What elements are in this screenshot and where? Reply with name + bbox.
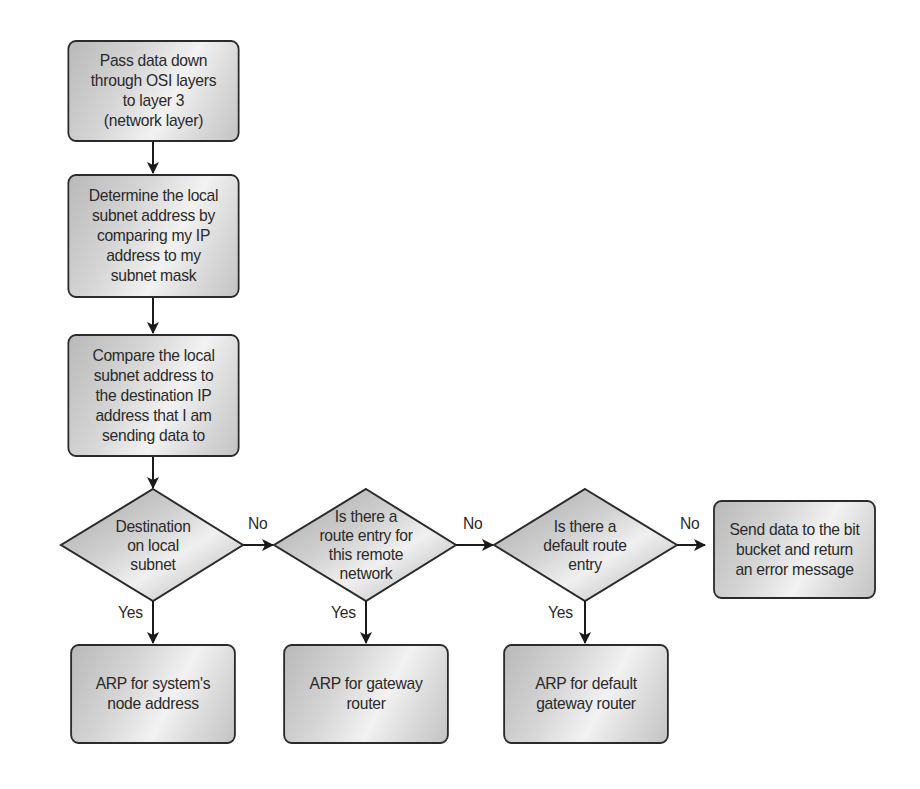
process-label: ARP for gateway router xyxy=(310,674,423,714)
edge-label-decision2-yes: Yes xyxy=(331,603,356,623)
process-arp-default-gateway: ARP for default gateway router xyxy=(503,644,669,744)
edge-label-decision3-no: No xyxy=(680,514,699,534)
process-label: ARP for default gateway router xyxy=(535,674,637,714)
process-label: Pass data down through OSI layers to lay… xyxy=(91,51,216,131)
process-arp-node-address: ARP for system's node address xyxy=(70,644,236,744)
edge-label-decision2-no: No xyxy=(463,514,482,534)
process-arp-gateway-router: ARP for gateway router xyxy=(283,644,449,744)
edge-label-decision3-yes: Yes xyxy=(548,603,573,623)
decision-label-route-entry: Is there a route entry for this remote n… xyxy=(302,503,431,587)
process-label: Determine the local subnet address by co… xyxy=(89,186,219,286)
process-pass-data-down: Pass data down through OSI layers to lay… xyxy=(67,40,239,142)
flowchart-canvas: Pass data down through OSI layers to lay… xyxy=(0,0,920,789)
process-compare-subnet-address: Compare the local subnet address to the … xyxy=(67,334,239,457)
process-send-to-bit-bucket: Send data to the bit bucket and return a… xyxy=(713,500,876,599)
edge-label-decision1-no: No xyxy=(248,514,267,534)
process-determine-local-subnet: Determine the local subnet address by co… xyxy=(67,174,239,298)
process-label: Send data to the bit bucket and return a… xyxy=(729,520,859,580)
process-label: ARP for system's node address xyxy=(96,674,211,714)
decision-label-local-subnet: Destination on local subnet xyxy=(89,507,218,583)
process-label: Compare the local subnet address to the … xyxy=(92,346,214,446)
edge-label-decision1-yes: Yes xyxy=(118,603,143,623)
decision-label-default-route: Is there a default route entry xyxy=(521,507,650,583)
